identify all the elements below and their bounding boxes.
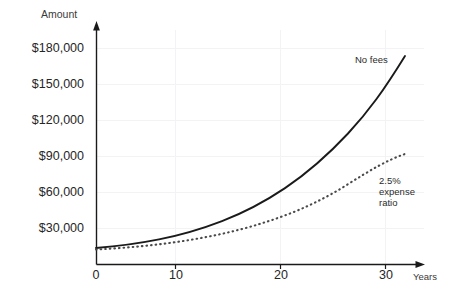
series-annotation-expense-ratio: 2.5% expense ratio	[379, 176, 415, 209]
y-axis-tick-label-120000: $120,000	[8, 113, 84, 127]
y-axis-arrowhead	[93, 21, 100, 31]
x-axis-tick-label-10: 10	[156, 268, 196, 282]
x-axis	[97, 261, 426, 268]
y-axis	[93, 21, 100, 265]
x-axis-tick-label-30: 30	[366, 268, 406, 282]
y-axis-tick-label-30000: $30,000	[8, 221, 84, 235]
y-axis-tick-label-180000: $180,000	[8, 41, 84, 55]
y-axis-tick-label-60000: $60,000	[8, 185, 84, 199]
x-axis-tick-label-20: 20	[261, 268, 301, 282]
y-axis-tick-label-150000: $150,000	[8, 77, 84, 91]
x-axis-title: Years	[413, 272, 437, 283]
horizontal-gridlines	[96, 49, 424, 229]
series-annotation-expense-ratio-line3: ratio	[379, 198, 415, 209]
series-curve-expense-ratio	[96, 154, 405, 250]
series-annotation-no-fees: No fees	[355, 55, 388, 66]
y-axis-tick-label-90000: $90,000	[8, 149, 84, 163]
x-axis-arrowhead	[416, 261, 426, 268]
x-axis-tick-label-0: 0	[76, 268, 116, 282]
y-axis-title: Amount	[41, 8, 77, 20]
chart-container: Amount Years $180,000 $150,000 $120,000 …	[0, 0, 453, 291]
